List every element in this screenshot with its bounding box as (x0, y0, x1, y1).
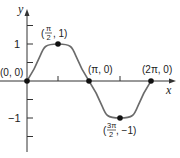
svg-text:2: 2 (47, 33, 51, 42)
y-axis-arrow-icon (25, 9, 30, 16)
label-pi: (π, 0) (88, 64, 113, 75)
tick-label-1: 1 (14, 38, 20, 50)
sine-graph: y x 1 −1 (0, 0) (π, 0) (2π, 0) ( π 2 , 1… (0, 0, 180, 158)
point-pi (86, 78, 92, 84)
svg-text:(: ( (41, 28, 45, 39)
point-min (117, 115, 123, 121)
label-max: ( π 2 , 1) (41, 24, 67, 42)
point-origin (24, 78, 30, 84)
svg-text:2: 2 (109, 130, 113, 139)
tick-label-neg1: −1 (8, 112, 21, 124)
svg-text:, 1): , 1) (53, 28, 67, 39)
y-axis-label: y (17, 2, 24, 16)
label-min: ( 3π 2 , −1) (103, 121, 136, 139)
x-axis-label: x (165, 83, 172, 97)
svg-text:, −1): , −1) (116, 125, 136, 136)
svg-text:3π: 3π (107, 121, 116, 130)
label-2pi: (2π, 0) (142, 64, 172, 75)
point-2pi (148, 78, 154, 84)
svg-text:π: π (46, 24, 51, 33)
point-max (55, 41, 61, 47)
label-origin: (0, 0) (0, 67, 23, 78)
